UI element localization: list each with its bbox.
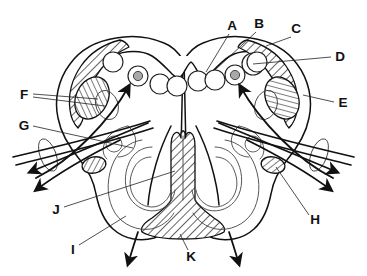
label-b: B <box>254 16 264 31</box>
figure-container: A B C D E F G H I J K <box>0 0 367 276</box>
label-f: F <box>20 87 28 102</box>
label-j: J <box>52 202 60 217</box>
label-g: G <box>19 118 30 133</box>
nucleus-circle <box>205 70 225 90</box>
nucleus-circle <box>167 76 187 96</box>
label-c: C <box>291 21 301 36</box>
nucleus-circle <box>247 52 267 72</box>
cored-nucleus-right <box>225 65 245 85</box>
label-a: A <box>227 18 237 33</box>
label-h: H <box>310 212 320 227</box>
label-d: D <box>335 49 345 64</box>
label-k: K <box>186 249 196 264</box>
label-e: E <box>338 95 347 110</box>
label-i: I <box>71 242 75 257</box>
cored-nucleus-left <box>128 66 148 86</box>
nucleus-circle <box>103 52 123 72</box>
anatomical-diagram: A B C D E F G H I J K <box>0 0 367 276</box>
